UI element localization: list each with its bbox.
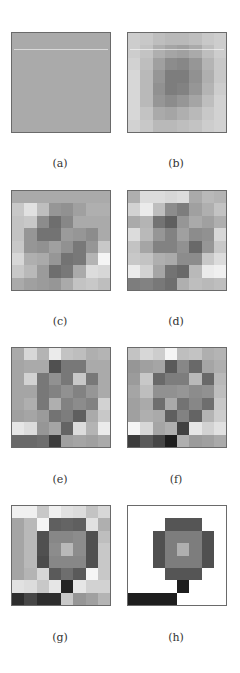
pixel-cell <box>189 373 201 385</box>
pixel-cell <box>73 191 85 203</box>
pixel-cell <box>189 580 201 592</box>
pixel-cell <box>177 398 189 410</box>
pixel-cell <box>189 556 201 568</box>
pixel-cell <box>86 531 98 543</box>
pixel-cell <box>12 95 24 107</box>
pixel-cell <box>61 120 73 132</box>
pixel-cell <box>98 203 110 215</box>
pixel-cell <box>140 70 152 82</box>
pixel-cell <box>49 398 61 410</box>
pixel-cell <box>98 70 110 82</box>
pixel-cell <box>214 385 226 397</box>
pixel-cell <box>165 506 177 518</box>
pixel-cell <box>140 265 152 277</box>
pixel-cell <box>128 265 140 277</box>
pixel-cell <box>214 422 226 434</box>
pixel-cell <box>98 265 110 277</box>
pixel-cell <box>86 543 98 555</box>
pixel-cell <box>24 518 36 530</box>
pixel-cell <box>165 360 177 372</box>
pixel-cell <box>86 398 98 410</box>
pixel-cell <box>214 360 226 372</box>
pixel-cell <box>24 58 36 70</box>
pixel-cell <box>49 568 61 580</box>
image-panel-g <box>11 505 111 606</box>
pixel-cell <box>189 83 201 95</box>
pixel-cell <box>98 58 110 70</box>
pixel-cell <box>61 543 73 555</box>
pixel-cell <box>153 58 165 70</box>
pixel-cell <box>202 593 214 605</box>
pixel-cell <box>61 385 73 397</box>
pixel-cell <box>73 33 85 45</box>
pixel-cell <box>61 107 73 119</box>
pixel-cell <box>86 568 98 580</box>
pixel-cell <box>202 120 214 132</box>
pixel-cell <box>128 531 140 543</box>
pixel-cell <box>12 33 24 45</box>
pixel-cell <box>61 373 73 385</box>
pixel-cell <box>61 45 73 57</box>
pixel-cell <box>202 83 214 95</box>
pixel-cell <box>61 435 73 447</box>
pixel-cell <box>49 265 61 277</box>
pixel-cell <box>177 253 189 265</box>
pixel-cell <box>189 410 201 422</box>
pixel-cell <box>86 580 98 592</box>
pixel-cell <box>153 216 165 228</box>
pixel-cell <box>12 191 24 203</box>
pixel-cell <box>153 265 165 277</box>
pixel-cell <box>12 531 24 543</box>
pixel-cell <box>202 360 214 372</box>
image-panel-f <box>127 347 227 448</box>
pixel-cell <box>128 556 140 568</box>
pixel-cell <box>49 531 61 543</box>
pixel-cell <box>214 107 226 119</box>
pixel-cell <box>98 385 110 397</box>
pixel-cell <box>128 422 140 434</box>
pixel-cell <box>165 265 177 277</box>
pixel-cell <box>165 593 177 605</box>
pixel-cell <box>189 120 201 132</box>
pixel-cell <box>165 373 177 385</box>
pixel-cell <box>153 385 165 397</box>
pixel-cell <box>140 422 152 434</box>
pixel-cell <box>37 360 49 372</box>
scan-artifact-line <box>14 49 108 50</box>
pixel-cell <box>24 422 36 434</box>
pixel-cell <box>128 360 140 372</box>
pixel-cell <box>98 83 110 95</box>
pixel-cell <box>140 568 152 580</box>
pixel-cell <box>49 228 61 240</box>
pixel-cell <box>37 107 49 119</box>
pixel-cell <box>202 241 214 253</box>
pixel-cell <box>61 58 73 70</box>
pixel-cell <box>61 398 73 410</box>
pixel-cell <box>153 278 165 290</box>
pixel-cell <box>37 531 49 543</box>
pixel-cell <box>165 580 177 592</box>
pixel-cell <box>86 95 98 107</box>
pixel-cell <box>202 70 214 82</box>
pixel-cell <box>12 593 24 605</box>
pixel-cell <box>98 253 110 265</box>
pixel-cell <box>12 216 24 228</box>
pixel-cell <box>61 531 73 543</box>
pixel-cell <box>73 410 85 422</box>
pixel-cell <box>189 265 201 277</box>
pixel-cell <box>153 568 165 580</box>
pixel-cell <box>24 203 36 215</box>
pixel-cell <box>189 398 201 410</box>
pixel-cell <box>98 360 110 372</box>
pixel-cell <box>86 410 98 422</box>
pixel-cell <box>37 58 49 70</box>
pixel-cell <box>214 241 226 253</box>
pixel-cell <box>177 593 189 605</box>
pixel-cell <box>49 385 61 397</box>
pixel-cell <box>98 278 110 290</box>
pixel-cell <box>86 506 98 518</box>
pixel-cell <box>153 45 165 57</box>
pixel-cell <box>165 58 177 70</box>
pixel-cell <box>98 373 110 385</box>
pixel-cell <box>12 83 24 95</box>
